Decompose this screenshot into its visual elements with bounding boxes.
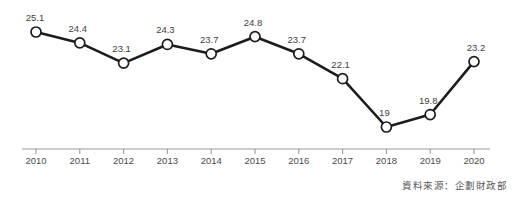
data-point-value-label: 19.8: [419, 95, 438, 106]
data-point-marker[interactable]: [206, 49, 216, 59]
data-point-marker[interactable]: [250, 32, 260, 42]
x-axis-tick-label: 2015: [244, 155, 265, 166]
marker-group: [31, 27, 479, 132]
x-axis-tick-label: 2020: [463, 155, 484, 166]
data-point-marker[interactable]: [75, 38, 85, 48]
data-point-marker[interactable]: [338, 74, 348, 84]
data-point-value-label: 23.7: [200, 34, 219, 45]
x-axis-tick-label: 2011: [70, 155, 90, 166]
x-axis-tick-label: 2013: [157, 155, 178, 166]
data-point-marker[interactable]: [425, 110, 435, 120]
x-axis-tick-label: 2016: [288, 155, 309, 166]
data-point-marker[interactable]: [469, 57, 479, 67]
x-axis: [22, 149, 490, 154]
series-line-group: [36, 32, 474, 127]
x-axis-tick-label: 2018: [376, 155, 397, 166]
line-chart: 25.124.423.124.323.724.823.722.11919.823…: [0, 0, 515, 197]
data-point-marker[interactable]: [119, 58, 129, 68]
data-point-value-label: 23.7: [288, 34, 307, 45]
data-point-marker[interactable]: [31, 27, 41, 37]
data-point-value-label: 23.1: [112, 43, 131, 54]
x-axis-tick-label: 2019: [420, 155, 441, 166]
x-axis-tick-label: 2014: [201, 155, 222, 166]
series-line: [36, 32, 474, 127]
chart-canvas: 25.124.423.124.323.724.823.722.11919.823…: [0, 0, 515, 197]
data-point-value-label: 24.4: [69, 23, 88, 34]
data-point-value-label: 23.2: [467, 42, 486, 53]
value-label-group: 25.124.423.124.323.724.823.722.11919.823…: [26, 12, 486, 118]
data-point-marker[interactable]: [381, 122, 391, 132]
data-point-value-label: 22.1: [331, 59, 350, 70]
x-axis-tick-label: 2012: [113, 155, 134, 166]
data-point-value-label: 24.3: [156, 24, 175, 35]
data-point-value-label: 24.8: [244, 17, 263, 28]
data-point-marker[interactable]: [294, 49, 304, 59]
data-point-marker[interactable]: [162, 39, 172, 49]
x-axis-tick-labels: 2010201120122013201420152016201720182019…: [25, 155, 484, 166]
x-axis-tick-label: 2010: [25, 155, 46, 166]
data-point-value-label: 25.1: [26, 12, 45, 23]
source-note: 資料來源：企劃財政部: [402, 178, 507, 192]
data-point-value-label: 19: [379, 107, 390, 118]
x-axis-tick-label: 2017: [332, 155, 353, 166]
